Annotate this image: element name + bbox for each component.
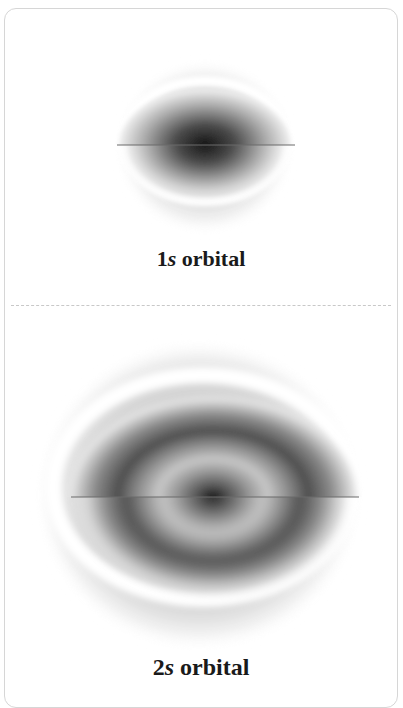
orbital-2s-label: 2s orbital (5, 654, 397, 681)
label-text: orbital (174, 654, 249, 680)
orbital-2s-diagram (27, 327, 377, 655)
label-number: 1 (157, 246, 168, 271)
orbital-1s-label: 1s orbital (5, 246, 397, 272)
orbital-1s-diagram (101, 49, 309, 241)
label-italic-s: s (165, 654, 174, 680)
label-number: 2 (153, 654, 165, 680)
label-italic-s: s (168, 246, 177, 271)
figure-panel: 1s orbital (4, 8, 398, 708)
section-divider (11, 305, 391, 306)
label-text: orbital (176, 246, 245, 271)
